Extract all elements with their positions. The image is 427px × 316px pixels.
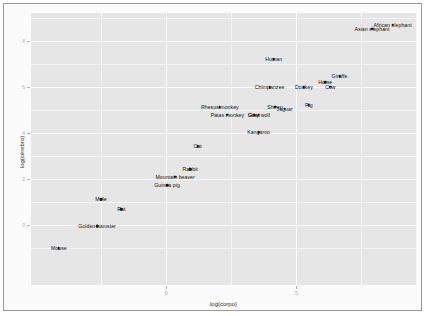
gridline-major-y	[31, 41, 416, 42]
data-point-label: Human	[265, 56, 282, 62]
data-point-label: Mole	[95, 196, 106, 202]
screenshot-frame: African elephantAsian elephantHumanGiraf…	[0, 0, 427, 316]
data-point-label: Cow	[325, 84, 336, 90]
y-axis-label: log(cérebro)	[19, 102, 25, 202]
data-point-label: Golden hamster	[78, 223, 116, 229]
y-tick-mark	[27, 41, 30, 42]
data-point-label: Asian elephant	[355, 26, 390, 32]
data-point-label: Mouse	[51, 245, 67, 251]
gridline-major-y	[31, 133, 416, 134]
y-tick-mark	[27, 179, 30, 180]
x-tick-mark	[296, 286, 297, 289]
y-tick-mark	[27, 225, 30, 226]
x-tick-mark	[166, 286, 167, 289]
y-tick-label: 6	[15, 84, 25, 90]
data-point-label: Pig	[305, 102, 313, 108]
gridline-major-y	[31, 179, 416, 180]
gridline-minor-y	[31, 202, 416, 203]
gridline-major-x	[166, 13, 167, 285]
plot-panel: African elephantAsian elephantHumanGiraf…	[31, 13, 416, 285]
gridline-major-y	[31, 87, 416, 88]
gridline-minor-x	[231, 13, 232, 285]
data-point-label: Giraffe	[332, 73, 348, 79]
data-point-label: Donkey	[295, 84, 313, 90]
data-point-label: Rabbit	[183, 166, 198, 172]
gridline-major-x	[296, 13, 297, 285]
x-axis-label: log(corpo)	[31, 301, 416, 307]
gridline-minor-y	[31, 248, 416, 249]
x-tick-label: 0	[165, 290, 168, 296]
y-tick-mark	[27, 133, 30, 134]
gridline-minor-x	[101, 13, 102, 285]
plot-outline: African elephantAsian elephantHumanGiraf…	[3, 3, 422, 311]
data-point-label: Patas monkey	[211, 112, 244, 118]
data-point-label: Kangaroo	[247, 129, 270, 135]
data-point-label: Rat	[117, 206, 125, 212]
x-tick-label: 5	[295, 290, 298, 296]
y-tick-label: 0	[15, 222, 25, 228]
y-tick-label: 8	[15, 38, 25, 44]
gridline-minor-y	[31, 64, 416, 65]
y-tick-mark	[27, 87, 30, 88]
data-point-label: Rhesus monkey	[201, 104, 239, 110]
data-point-label: Chimpanzee	[255, 84, 285, 90]
data-point-label: Sheep	[267, 104, 282, 110]
data-point-label: Goat	[248, 112, 259, 118]
data-point-label: Guinea pig	[154, 182, 180, 188]
gridline-minor-x	[361, 13, 362, 285]
gridline-minor-y	[31, 18, 416, 19]
gridline-minor-y	[31, 156, 416, 157]
data-point-label: Cat	[194, 143, 202, 149]
data-point-label: Mountain beaver	[155, 174, 194, 180]
